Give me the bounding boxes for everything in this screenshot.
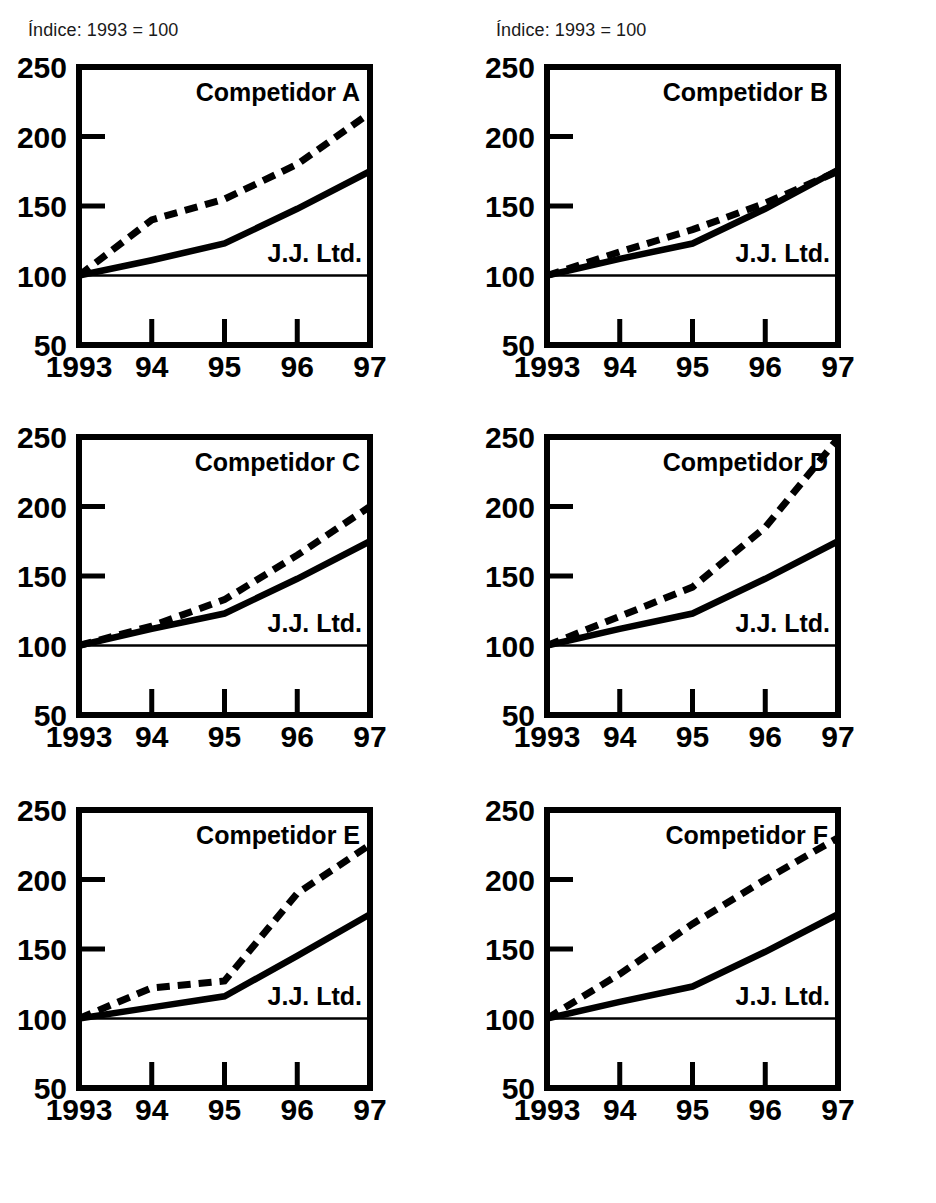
x-axis-tick-label: 94 bbox=[603, 350, 637, 383]
y-axis-tick-label: 250 bbox=[485, 425, 535, 454]
y-axis-tick-label: 200 bbox=[485, 121, 535, 154]
x-axis-tick-label: 94 bbox=[135, 350, 169, 383]
chart-title: Competidor D bbox=[663, 448, 828, 476]
y-axis-tick-label: 100 bbox=[17, 630, 67, 663]
x-axis-tick-label: 95 bbox=[676, 720, 709, 753]
x-axis-tick-label: 1993 bbox=[46, 1093, 113, 1126]
x-axis-tick-label: 1993 bbox=[514, 720, 581, 753]
x-axis-tick-label: 94 bbox=[603, 720, 637, 753]
chart-title: Competidor A bbox=[196, 78, 360, 106]
jj-ltd-label: J.J. Ltd. bbox=[268, 609, 362, 637]
y-axis-tick-label: 150 bbox=[17, 560, 67, 593]
jj-ltd-label: J.J. Ltd. bbox=[736, 609, 830, 637]
y-axis-tick-label: 200 bbox=[17, 491, 67, 524]
chart-title: Competidor B bbox=[663, 78, 828, 106]
chart-cell-d: 25020015010050199394959697Competidor DJ.… bbox=[468, 400, 936, 770]
jj-ltd-label: J.J. Ltd. bbox=[736, 239, 830, 267]
y-axis-tick-label: 200 bbox=[485, 491, 535, 524]
x-axis-tick-label: 95 bbox=[208, 1093, 241, 1126]
x-axis-tick-label: 96 bbox=[281, 350, 314, 383]
plot-competidor-b: 25020015010050199394959697Competidor BJ.… bbox=[468, 0, 936, 400]
x-axis-tick-label: 96 bbox=[281, 720, 314, 753]
chart-title: Competidor F bbox=[666, 821, 829, 849]
x-axis-tick-label: 96 bbox=[281, 1093, 314, 1126]
x-axis-tick-label: 95 bbox=[676, 1093, 709, 1126]
y-axis-tick-label: 100 bbox=[485, 260, 535, 293]
x-axis-tick-label: 95 bbox=[676, 350, 709, 383]
y-axis-tick-label: 100 bbox=[17, 260, 67, 293]
y-axis-tick-label: 150 bbox=[17, 190, 67, 223]
y-axis-tick-label: 200 bbox=[485, 864, 535, 897]
x-axis-tick-label: 96 bbox=[749, 1093, 782, 1126]
x-axis-tick-label: 95 bbox=[208, 350, 241, 383]
y-axis-tick-label: 250 bbox=[17, 798, 67, 827]
x-axis-tick-label: 96 bbox=[749, 720, 782, 753]
y-axis-tick-label: 150 bbox=[17, 933, 67, 966]
x-axis-tick-label: 95 bbox=[208, 720, 241, 753]
chart-cell-c: 25020015010050199394959697Competidor CJ.… bbox=[0, 400, 468, 770]
chart-grid: Índice: 1993 = 100 250200150100501993949… bbox=[0, 0, 936, 1203]
y-axis-tick-label: 200 bbox=[17, 864, 67, 897]
plot-competidor-a: 25020015010050199394959697Competidor AJ.… bbox=[0, 0, 468, 400]
x-axis-tick-label: 1993 bbox=[46, 350, 113, 383]
chart-title: Competidor E bbox=[196, 821, 360, 849]
x-axis-tick-label: 94 bbox=[603, 1093, 637, 1126]
plot-competidor-f: 25020015010050199394959697Competidor FJ.… bbox=[468, 770, 936, 1203]
chart-cell-f: 25020015010050199394959697Competidor FJ.… bbox=[468, 770, 936, 1203]
y-axis-tick-label: 150 bbox=[485, 190, 535, 223]
plot-competidor-c: 25020015010050199394959697Competidor CJ.… bbox=[0, 400, 468, 770]
y-axis-tick-label: 200 bbox=[17, 121, 67, 154]
x-axis-tick-label: 1993 bbox=[514, 350, 581, 383]
y-axis-tick-label: 250 bbox=[485, 55, 535, 84]
y-axis-tick-label: 150 bbox=[485, 933, 535, 966]
x-axis-tick-label: 1993 bbox=[46, 720, 113, 753]
chart-title: Competidor C bbox=[195, 448, 360, 476]
plot-competidor-d: 25020015010050199394959697Competidor DJ.… bbox=[468, 400, 936, 770]
x-axis-tick-label: 97 bbox=[821, 1093, 854, 1126]
jj-ltd-label: J.J. Ltd. bbox=[736, 982, 830, 1010]
x-axis-tick-label: 94 bbox=[135, 720, 169, 753]
y-axis-tick-label: 250 bbox=[17, 55, 67, 84]
chart-cell-a: Índice: 1993 = 100 250200150100501993949… bbox=[0, 0, 468, 400]
x-axis-tick-label: 97 bbox=[353, 1093, 386, 1126]
y-axis-tick-label: 250 bbox=[485, 798, 535, 827]
x-axis-tick-label: 97 bbox=[821, 720, 854, 753]
chart-cell-e: 25020015010050199394959697Competidor EJ.… bbox=[0, 770, 468, 1203]
x-axis-tick-label: 96 bbox=[749, 350, 782, 383]
x-axis-tick-label: 97 bbox=[353, 350, 386, 383]
y-axis-tick-label: 250 bbox=[17, 425, 67, 454]
x-axis-tick-label: 1993 bbox=[514, 1093, 581, 1126]
x-axis-tick-label: 94 bbox=[135, 1093, 169, 1126]
jj-ltd-label: J.J. Ltd. bbox=[268, 239, 362, 267]
x-axis-tick-label: 97 bbox=[821, 350, 854, 383]
y-axis-tick-label: 150 bbox=[485, 560, 535, 593]
y-axis-tick-label: 100 bbox=[17, 1003, 67, 1036]
x-axis-tick-label: 97 bbox=[353, 720, 386, 753]
y-axis-tick-label: 100 bbox=[485, 1003, 535, 1036]
plot-competidor-e: 25020015010050199394959697Competidor EJ.… bbox=[0, 770, 468, 1203]
jj-ltd-label: J.J. Ltd. bbox=[268, 982, 362, 1010]
chart-cell-b: Índice: 1993 = 100 250200150100501993949… bbox=[468, 0, 936, 400]
y-axis-tick-label: 100 bbox=[485, 630, 535, 663]
